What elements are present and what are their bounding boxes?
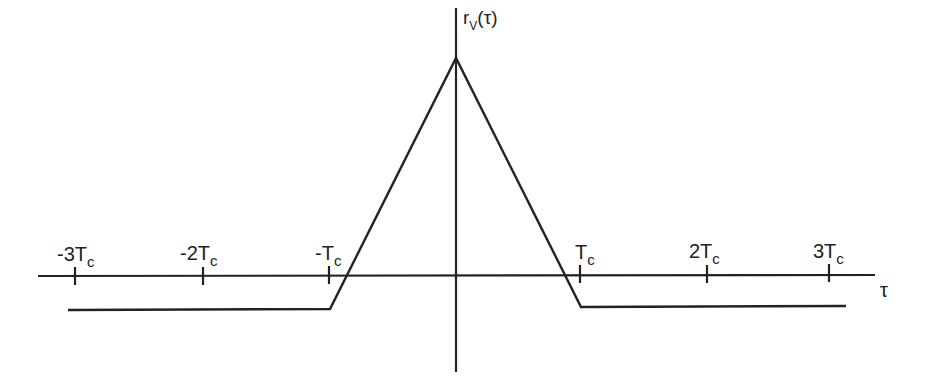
tick-labels: -3Tc -2Tc -Tc Tc 2Tc 3Tc [57, 240, 844, 270]
tick-label-tc: Tc [575, 241, 595, 268]
tick-label-2tc: 2Tc [689, 240, 720, 267]
tick-label-neg3tc: -3Tc [57, 243, 95, 270]
tick-label-negtc: -Tc [315, 242, 342, 269]
autocorrelation-diagram: rV(τ) τ -3Tc -2Tc -Tc Tc 2Tc 3Tc [0, 0, 928, 392]
x-axis-label: τ [880, 279, 888, 301]
tick-label-3tc: 3Tc [813, 240, 844, 267]
tick-label-neg2tc: -2Tc [180, 242, 218, 269]
y-axis-label: rV(τ) [463, 7, 498, 33]
